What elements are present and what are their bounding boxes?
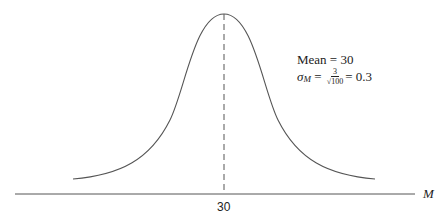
equals-sign: = bbox=[311, 69, 325, 84]
fraction-denominator: √100 bbox=[327, 77, 343, 86]
fraction: 3 √100 bbox=[327, 67, 343, 86]
mean-annotation: Mean = 30 bbox=[297, 52, 353, 67]
fraction-numerator: 3 bbox=[331, 67, 339, 77]
result-value: = 0.3 bbox=[345, 69, 372, 84]
sigma-subscript: M bbox=[303, 72, 311, 87]
standard-error-annotation: σ M = 3 √100 = 0.3 bbox=[297, 67, 372, 86]
distribution-diagram bbox=[0, 0, 446, 220]
center-tick-label: 30 bbox=[217, 200, 230, 214]
axis-label: M bbox=[423, 186, 434, 202]
